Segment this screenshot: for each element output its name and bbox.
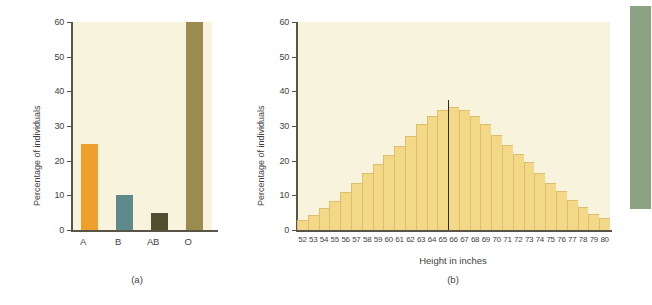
panel-b-ytick-20 [292,161,296,162]
histogram-bar[interactable] [459,110,470,230]
histogram-bar[interactable] [319,208,330,230]
panel-a-ytick-label-50: 50 [44,53,64,62]
panel-a-ytick-label-40: 40 [44,87,64,96]
panel-b-ytick-50 [292,57,296,58]
panel-b-caption: (b) [438,275,468,285]
histogram-bar[interactable] [405,136,416,230]
histogram-bar[interactable] [351,183,362,230]
panel-a-ytick-60 [67,22,71,23]
side-color-swatch [630,6,651,209]
panel-b-ytick-label-30: 30 [269,122,289,131]
panel-a-ytick-20 [67,161,71,162]
histogram-bar[interactable] [599,218,610,230]
histogram-bar[interactable] [394,146,405,230]
panel-b-ytick-0 [292,230,296,231]
histogram-bar[interactable] [588,214,599,230]
bar-blood-type-o[interactable] [186,22,203,230]
histogram-bar[interactable] [329,201,340,230]
panel-b-histogram-bars [297,22,610,230]
histogram-bar[interactable] [416,124,427,230]
panel-b-ytick-label-60: 60 [269,18,289,27]
histogram-bar[interactable] [578,207,589,230]
panel-b-ytick-10 [292,195,296,196]
panel-a-ytick-40 [67,91,71,92]
histogram-bar[interactable] [545,183,556,230]
panel-b-ytick-label-50: 50 [269,53,289,62]
panel-b-ytick-30 [292,126,296,127]
panel-a-y-axis-title: Percentage of individuals [33,105,42,206]
panel-b-ytick-label-0: 0 [269,226,289,235]
histogram-bar[interactable] [427,116,438,230]
histogram-bar[interactable] [556,191,567,230]
panel-a-x-axis [71,230,218,232]
panel-b-ytick-label-10: 10 [269,191,289,200]
panel-a-caption: (a) [122,275,152,285]
panel-a-ytick-50 [67,57,71,58]
histogram-bar[interactable] [524,162,535,230]
histogram-bar[interactable] [470,116,481,230]
panel-b-ytick-label-40: 40 [269,87,289,96]
panel-b-y-axis-title: Percentage of individuals [257,105,266,206]
panel-a-xtick-label-b: B [103,238,133,246]
panel-b-x-axis-title: Height in inches [378,256,528,266]
panel-b-figure: Percentage of individuals 0 10 20 30 40 … [232,0,622,305]
panel-b-ytick-60 [292,22,296,23]
bar-blood-type-a[interactable] [81,144,98,230]
histogram-bar[interactable] [491,135,502,230]
panel-a-ytick-label-10: 10 [44,191,64,200]
panel-a-bars [72,22,212,230]
bar-blood-type-b[interactable] [116,195,133,230]
panel-a-ytick-label-0: 0 [44,226,64,235]
panel-a-xtick-label-a: A [68,238,98,246]
histogram-bar[interactable] [383,155,394,230]
panel-a-xtick-label-o: O [173,238,203,246]
histogram-bar[interactable] [448,107,459,230]
panel-b-x-tick-labels: 5253545556575859606162636465666768697071… [297,236,610,248]
panel-b-ytick-40 [292,91,296,92]
histogram-bar[interactable] [567,200,578,230]
panel-a-ytick-label-20: 20 [44,157,64,166]
histogram-bar[interactable] [308,215,319,230]
panel-a-ytick-30 [67,126,71,127]
histogram-bar[interactable] [513,154,524,230]
panel-a-ytick-label-60: 60 [44,18,64,27]
panel-b-xtick-label: 80 [595,236,614,244]
mean-marker-line [448,100,449,230]
histogram-bar[interactable] [480,124,491,230]
histogram-bar[interactable] [340,192,351,230]
panel-a-ytick-label-30: 30 [44,122,64,131]
histogram-bar[interactable] [534,173,545,230]
panel-a-xtick-label-ab: AB [138,238,168,246]
histogram-bar[interactable] [437,110,448,230]
panel-b-ytick-label-20: 20 [269,157,289,166]
panel-b-x-axis [296,230,612,232]
histogram-bar[interactable] [362,173,373,230]
panel-a-ytick-10 [67,195,71,196]
histogram-bar[interactable] [297,220,308,230]
histogram-bar[interactable] [373,164,384,230]
panel-a-ytick-0 [67,230,71,231]
bar-blood-type-ab[interactable] [151,213,168,230]
histogram-bar[interactable] [502,145,513,230]
panel-a-figure: Percentage of individuals 0 10 20 30 40 … [0,0,232,305]
